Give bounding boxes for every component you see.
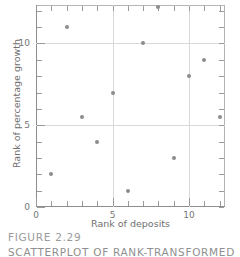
x-tick-top [128,6,129,11]
y-tick [37,207,45,208]
y-tick-right [219,43,224,44]
x-tick [128,201,129,206]
data-point [202,58,206,62]
data-point [187,74,191,78]
y-tick [37,11,42,12]
x-tick-top [204,6,205,11]
y-tick [37,93,42,94]
y-tick [37,174,42,175]
y-tick [37,158,42,159]
x-tick [51,201,52,206]
y-tick-right [219,142,224,143]
data-point [95,140,99,144]
axis-bottom-spine [36,206,225,207]
plot-area [36,5,225,207]
y-tick [37,43,45,44]
x-tick-top [220,6,221,11]
x-tick [67,201,68,206]
y-tick [37,27,42,28]
figure-caption: FIGURE 2.29 SCATTERPLOT OF RANK-TRANSFOR… [8,231,240,257]
y-tick-right [219,207,224,208]
y-tick-label: 0 [6,202,30,212]
data-point [218,115,222,119]
y-tick [37,76,42,77]
x-tick [36,198,37,206]
figure-root: 0510 0510 Rank of deposits Rank of perce… [0,0,240,257]
scatterplot-chart: 0510 0510 Rank of deposits Rank of perce… [0,0,240,230]
gridline-vertical [189,5,190,207]
data-point [65,25,69,29]
x-tick-top [189,6,190,11]
x-tick [82,201,83,206]
axis-top-spine [36,5,225,6]
axis-left-spine [36,5,37,207]
x-tick-top [82,6,83,11]
x-tick [204,201,205,206]
x-tick-top [113,6,114,11]
data-point [172,156,176,160]
y-axis-label: Rank of percentage growth [11,14,22,194]
y-tick [37,109,42,110]
data-point [80,115,84,119]
y-tick [37,191,42,192]
figure-caption-title: FIGURE 2.29 [8,231,240,243]
x-tick-top [174,6,175,11]
y-tick [37,142,42,143]
y-tick-right [219,158,224,159]
y-tick-right [219,125,224,126]
axis-right-spine [224,5,225,207]
y-tick-right [219,174,224,175]
x-tick-top [51,6,52,11]
x-tick [97,201,98,206]
data-point [111,91,115,95]
x-tick [220,201,221,206]
x-tick-top [67,6,68,11]
y-tick-right [219,93,224,94]
gridline-vertical [113,5,114,207]
x-tick-top [143,6,144,11]
x-tick-top [97,6,98,11]
data-point [126,189,130,193]
data-point [141,41,145,45]
x-tick [189,198,190,206]
x-axis-label: Rank of deposits [36,218,225,229]
data-point [49,172,53,176]
gridline-horizontal [36,43,225,44]
x-tick [113,198,114,206]
figure-caption-subtitle: SCATTERPLOT OF RANK-TRANSFORMED [8,246,240,257]
x-tick-top [36,6,37,11]
x-tick [158,201,159,206]
x-tick [143,201,144,206]
y-tick [37,125,45,126]
y-tick-right [219,109,224,110]
gridline-horizontal [36,125,225,126]
y-tick-right [219,76,224,77]
y-tick-right [219,27,224,28]
data-point [156,5,160,9]
y-tick [37,60,42,61]
y-tick-right [219,191,224,192]
y-tick-right [219,60,224,61]
x-tick [174,201,175,206]
